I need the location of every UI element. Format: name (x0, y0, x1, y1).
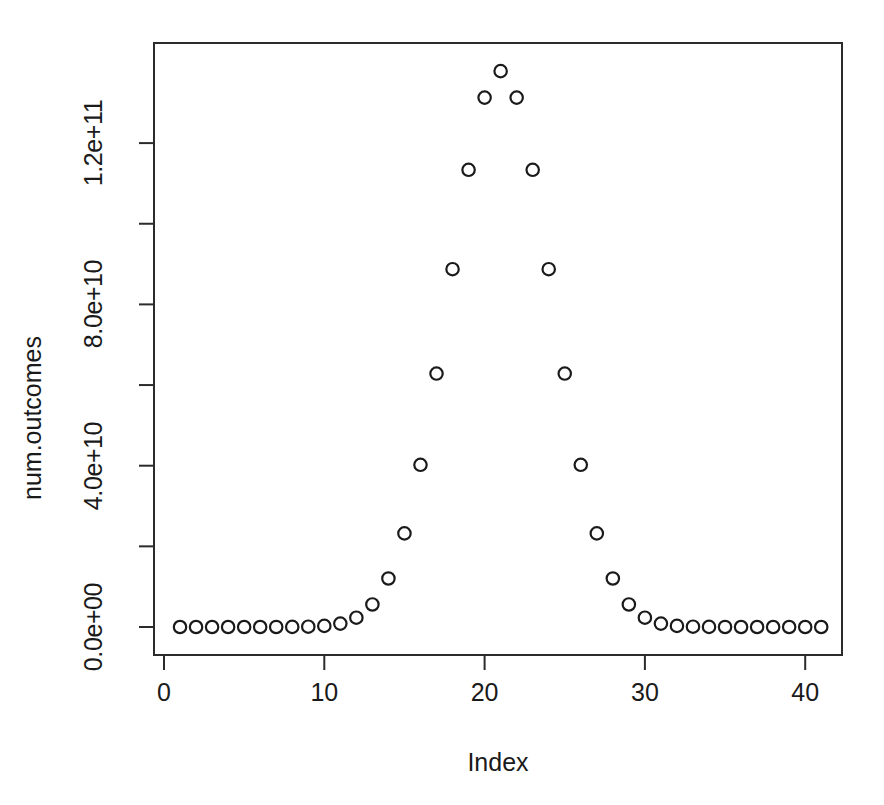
y-tick-label: 4.0e+10 (77, 401, 109, 531)
r-plot-canvas: 0.0e+004.0e+108.0e+101.2e+11 010203040 n… (0, 0, 884, 805)
x-tick-label: 20 (440, 678, 530, 707)
plot-panel-box (153, 42, 843, 656)
x-tick-label: 10 (279, 678, 369, 707)
y-axis-title: num.outcomes (18, 200, 58, 500)
x-tick-label: 30 (600, 678, 690, 707)
x-axis-title: Index (153, 748, 843, 777)
y-tick-label: 8.0e+10 (77, 239, 109, 369)
x-axis-ticks (164, 656, 805, 670)
x-tick-label: 40 (760, 678, 850, 707)
x-tick-label: 0 (119, 678, 209, 707)
y-tick-label: 0.0e+00 (77, 562, 109, 692)
y-axis-ticks (139, 143, 153, 627)
y-tick-label: 1.2e+11 (77, 78, 109, 208)
